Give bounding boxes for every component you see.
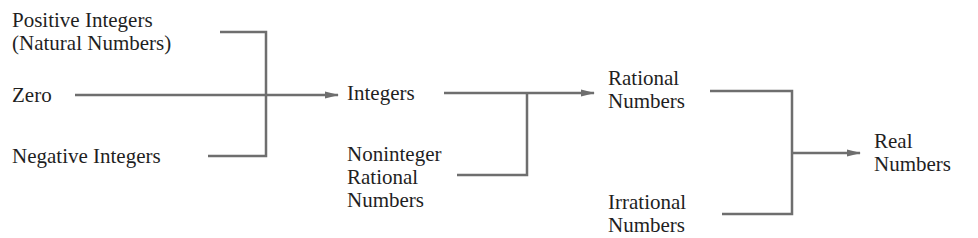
node-line: Numbers <box>874 153 951 176</box>
node-line: Integers <box>347 82 415 105</box>
bracket-rational <box>457 93 527 175</box>
bracket-real <box>710 91 792 214</box>
node-line: Negative Integers <box>12 145 161 168</box>
node-line: (Natural Numbers) <box>12 32 171 55</box>
node-line: Irrational <box>608 191 686 214</box>
node-real-numbers: Real Numbers <box>874 130 951 176</box>
node-positive-integers: Positive Integers (Natural Numbers) <box>12 9 171 55</box>
node-line: Rational <box>608 67 685 90</box>
node-negative-integers: Negative Integers <box>12 145 161 168</box>
node-rational-numbers: Rational Numbers <box>608 67 685 113</box>
node-line: Numbers <box>608 214 686 237</box>
node-line: Numbers <box>608 90 685 113</box>
node-line: Real <box>874 130 951 153</box>
node-noninteger-rational: Noninteger Rational Numbers <box>347 143 441 212</box>
node-line: Rational <box>347 166 441 189</box>
node-line: Numbers <box>347 189 441 212</box>
node-line: Zero <box>12 84 52 107</box>
node-integers: Integers <box>347 82 415 105</box>
node-irrational-numbers: Irrational Numbers <box>608 191 686 237</box>
node-zero: Zero <box>12 84 52 107</box>
node-line: Noninteger <box>347 143 441 166</box>
node-line: Positive Integers <box>12 9 171 32</box>
